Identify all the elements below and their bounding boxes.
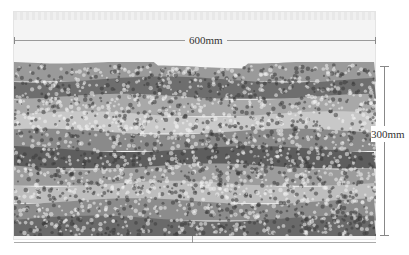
center-marker [192,236,193,243]
container-base-line [14,242,376,243]
height-dimension-tick-bottom [380,235,389,236]
width-dimension-tick-right [375,37,376,44]
width-dimension-tick-left [14,37,15,44]
granular-particle-layers [14,62,376,236]
height-dimension-line [384,66,385,236]
height-dimension-label: 300mm [371,126,405,142]
width-dimension-label: 600mm [185,33,227,47]
container-top-strip [14,12,375,20]
height-dimension-tick-top [380,66,389,67]
